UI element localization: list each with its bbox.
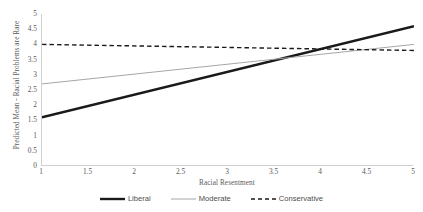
chart-legend: LiberalModerateConservative: [0, 192, 423, 206]
series-line-conservative: [42, 44, 414, 50]
x-axis-tick-label: 2: [119, 168, 149, 175]
y-axis-tick-label: 3.5: [17, 56, 37, 63]
y-axis-tick-label: 2.5: [17, 86, 37, 93]
y-axis-tick-label: 0.5: [17, 147, 37, 154]
y-axis-tick-label: 3: [17, 71, 37, 78]
chart-figure: Predicted Mean - Racial Problems are Rar…: [0, 0, 423, 212]
x-axis-tick-label: 4.5: [352, 168, 382, 175]
legend-label: Liberal: [128, 195, 151, 203]
x-axis-tick-label: 3.5: [259, 168, 289, 175]
x-axis-tick-label: 5: [398, 168, 423, 175]
legend-item-liberal[interactable]: Liberal: [100, 195, 151, 203]
x-axis-tick-label: 1: [26, 168, 56, 175]
x-axis-tick-label: 3: [212, 168, 242, 175]
legend-item-moderate[interactable]: Moderate: [171, 195, 231, 203]
plot-lines: [42, 14, 414, 166]
legend-swatch-conservative-icon: [251, 195, 276, 203]
y-axis-tick-label: 4: [17, 41, 37, 48]
y-axis-tick-label: 1: [17, 132, 37, 139]
series-line-liberal: [42, 26, 414, 117]
legend-swatch-liberal-icon: [100, 195, 125, 203]
x-axis-tick-label: 1.5: [73, 168, 103, 175]
legend-label: Moderate: [199, 195, 231, 203]
x-axis-tick-label: 4: [305, 168, 335, 175]
legend-item-conservative[interactable]: Conservative: [251, 195, 323, 203]
plot-area: [41, 14, 413, 166]
series-line-moderate: [42, 44, 414, 84]
y-axis-tick-label: 1.5: [17, 117, 37, 124]
x-axis-tick-label: 2.5: [166, 168, 196, 175]
y-axis-tick-labels: 00.511.522.533.544.55: [17, 14, 37, 166]
y-axis-tick-label: 5: [17, 10, 37, 17]
y-axis-tick-label: 2: [17, 101, 37, 108]
legend-label: Conservative: [279, 195, 323, 203]
y-axis-tick-label: 4.5: [17, 25, 37, 32]
x-axis-title: Racial Resentment: [41, 179, 413, 187]
legend-swatch-moderate-icon: [171, 195, 196, 203]
